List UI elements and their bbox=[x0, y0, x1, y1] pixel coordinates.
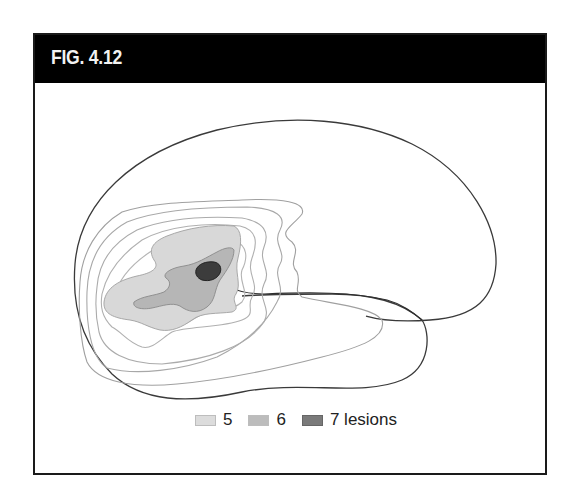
legend-label-7: 7 lesions bbox=[330, 410, 397, 430]
legend-label-5: 5 bbox=[223, 410, 232, 430]
legend-item-6: 6 bbox=[248, 410, 285, 430]
legend-swatch-7 bbox=[302, 415, 323, 426]
legend-swatch-5 bbox=[195, 415, 216, 426]
legend-item-5: 5 bbox=[195, 410, 232, 430]
figure-frame: FIG. 4.12 5 6 7 lesions bbox=[33, 33, 547, 475]
legend: 5 6 7 lesions bbox=[195, 408, 413, 432]
legend-swatch-6 bbox=[248, 415, 269, 426]
legend-label-6: 6 bbox=[276, 410, 285, 430]
legend-item-7: 7 lesions bbox=[302, 410, 397, 430]
